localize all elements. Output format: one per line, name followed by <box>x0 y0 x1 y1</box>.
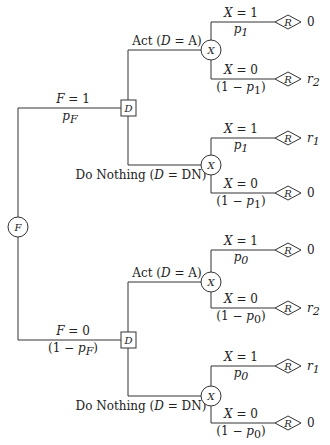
svg-text:R: R <box>283 133 292 144</box>
svg-text:R: R <box>283 245 292 256</box>
action-label-act-bottom: Act (D = A) <box>131 266 201 280</box>
action-label-do-nothing-top: Do Nothing (D = DN) <box>76 168 207 182</box>
decision-node-d-bottom: D <box>121 282 201 396</box>
svg-text:X = 0: X = 0 <box>223 63 258 77</box>
svg-text:r2: r2 <box>307 301 320 318</box>
svg-text:R: R <box>283 303 292 314</box>
branch-label-f1: F = 1 pF <box>55 92 90 126</box>
reward-leaf-6: R r2 <box>275 301 320 318</box>
decision-node-d-top: D <box>121 50 201 165</box>
svg-text:R: R <box>283 74 292 85</box>
svg-text:p1: p1 <box>234 138 249 155</box>
action-label-act-top: Act (D = A) <box>131 34 201 48</box>
svg-text:X = 0: X = 0 <box>223 292 258 306</box>
svg-text:X = 1: X = 1 <box>223 122 258 136</box>
svg-text:0: 0 <box>307 416 315 430</box>
svg-text:r1: r1 <box>307 359 320 376</box>
reward-leaf-8: R 0 <box>275 416 315 430</box>
chance-node-x-f0-dn: X X = 1 p0 X = 0 (1 − p0) <box>201 350 275 441</box>
svg-text:R: R <box>283 418 292 429</box>
reward-leaf-1: R 0 <box>275 15 315 29</box>
svg-text:r2: r2 <box>307 72 320 89</box>
decision-tree-diagram: F F = 1 pF F = 0 (1 − pF) D Act (D = A) … <box>0 0 330 445</box>
svg-text:0: 0 <box>307 15 315 29</box>
svg-text:F: F <box>14 222 23 233</box>
chance-node-x-f1-act: X X = 1 p1 X = 0 (1 − p1) <box>201 6 275 97</box>
svg-text:0: 0 <box>307 186 315 200</box>
reward-leaf-7: R r1 <box>275 359 320 376</box>
svg-text:(1 − p0): (1 − p0) <box>216 309 265 326</box>
root-chance-node-f: F <box>8 108 128 340</box>
svg-text:X = 1: X = 1 <box>223 350 258 364</box>
chance-node-x-f0-act: X X = 1 p0 X = 0 (1 − p0) <box>201 234 275 326</box>
svg-text:X = 1: X = 1 <box>223 234 258 248</box>
svg-text:p1: p1 <box>234 22 249 39</box>
svg-text:X = 0: X = 0 <box>223 407 258 421</box>
svg-text:r1: r1 <box>307 131 320 148</box>
svg-text:p0: p0 <box>234 366 249 383</box>
action-label-do-nothing-bottom: Do Nothing (D = DN) <box>76 399 207 413</box>
svg-text:R: R <box>283 188 292 199</box>
svg-text:(1 − p1): (1 − p1) <box>216 194 265 211</box>
svg-text:F = 1: F = 1 <box>55 92 90 106</box>
svg-text:(1 − p0): (1 − p0) <box>216 424 265 441</box>
branch-label-f0: F = 0 (1 − pF) <box>48 324 98 358</box>
svg-text:X = 1: X = 1 <box>223 6 258 20</box>
svg-text:(1 − pF): (1 − pF) <box>48 341 98 358</box>
svg-text:X: X <box>206 391 215 402</box>
svg-text:X: X <box>206 277 215 288</box>
svg-text:0: 0 <box>307 243 315 257</box>
svg-text:pF: pF <box>62 109 78 126</box>
svg-text:D: D <box>123 335 132 346</box>
svg-text:X: X <box>206 45 215 56</box>
svg-text:X: X <box>206 160 215 171</box>
reward-leaf-4: R 0 <box>275 186 315 200</box>
svg-text:F = 0: F = 0 <box>55 324 90 338</box>
svg-text:p0: p0 <box>234 250 249 267</box>
reward-leaf-3: R r1 <box>275 131 320 148</box>
svg-text:D: D <box>123 103 132 114</box>
svg-text:R: R <box>283 361 292 372</box>
chance-node-x-f1-dn: X X = 1 p1 X = 0 (1 − p1) <box>201 122 275 211</box>
svg-text:(1 − p1): (1 − p1) <box>216 80 265 97</box>
reward-leaf-5: R 0 <box>275 243 315 257</box>
svg-text:R: R <box>283 17 292 28</box>
svg-text:X = 0: X = 0 <box>223 177 258 191</box>
reward-leaf-2: R r2 <box>275 72 320 89</box>
